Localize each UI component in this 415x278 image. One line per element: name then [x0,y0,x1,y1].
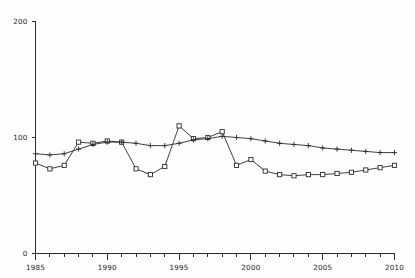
series-line-plus-series [36,136,395,155]
x-tick-label-2010: 2010 [385,263,404,272]
data-point-square-series-2003 [292,174,296,178]
data-point-plus-series-2000 [248,136,253,141]
data-point-square-series-2001 [263,169,267,173]
data-point-plus-series-2009 [378,150,383,155]
x-tick-label-2000: 2000 [241,263,260,272]
x-axis: 198519901995200020052010 [26,254,404,272]
data-point-square-series-2000 [249,157,253,161]
data-point-square-series-1994 [163,164,167,168]
data-point-plus-series-1998 [220,134,225,139]
data-point-plus-series-1993 [148,143,153,148]
data-point-square-series-1985 [33,161,37,165]
y-tick-label-100: 100 [13,133,28,142]
data-point-square-series-2006 [335,171,339,175]
data-point-square-series-1998 [220,130,224,134]
data-point-square-series-1986 [48,167,52,171]
data-point-square-series-1988 [76,140,80,144]
data-point-plus-series-2010 [392,150,397,155]
data-point-square-series-2004 [306,173,310,177]
data-point-square-series-1993 [148,173,152,177]
line-chart-plot: 0100200 198519901995200020052010 [0,0,415,278]
data-point-square-series-2002 [278,173,282,177]
data-point-plus-series-2004 [306,143,311,148]
data-point-plus-series-2008 [363,149,368,154]
series-line-square-series [36,126,395,176]
y-axis: 0100200 [13,17,35,258]
data-point-plus-series-2007 [349,148,354,153]
data-point-square-series-1999 [234,163,238,167]
data-point-square-series-1992 [134,167,138,171]
data-point-plus-series-1999 [234,135,239,140]
data-point-plus-series-2006 [334,147,339,152]
data-point-square-series-2005 [321,173,325,177]
data-point-square-series-1987 [62,163,66,167]
chart-container: 0100200 198519901995200020052010 [0,0,415,278]
data-point-square-series-2007 [349,170,353,174]
markers-square-series [33,124,396,178]
data-point-plus-series-1986 [47,152,52,157]
x-tick-label-1985: 1985 [26,263,45,272]
data-point-plus-series-1987 [62,151,67,156]
data-point-plus-series-1985 [33,151,38,156]
data-series-group [33,124,397,178]
data-point-square-series-1995 [177,124,181,128]
data-point-plus-series-1988 [76,147,81,152]
data-point-plus-series-1994 [162,143,167,148]
data-point-plus-series-1995 [177,141,182,146]
data-point-plus-series-2003 [291,142,296,147]
data-point-square-series-2008 [364,168,368,172]
data-point-square-series-2009 [378,166,382,170]
y-tick-label-200: 200 [13,17,28,26]
x-tick-label-1995: 1995 [170,263,189,272]
y-tick-label-0: 0 [23,249,28,258]
data-point-plus-series-1992 [133,141,138,146]
data-point-square-series-2010 [392,163,396,167]
data-point-plus-series-2002 [277,141,282,146]
data-point-plus-series-2005 [320,145,325,150]
x-tick-label-2005: 2005 [313,263,332,272]
data-point-plus-series-2001 [263,138,268,143]
x-tick-label-1990: 1990 [98,263,117,272]
